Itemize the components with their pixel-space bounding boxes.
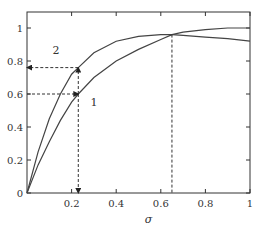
x-tick-label: 0.2	[64, 198, 80, 209]
line-chart: 0.20.40.60.8100.20.40.60.81σ21	[0, 0, 261, 227]
curve-label-2: 2	[52, 44, 59, 57]
y-tick-label: 0.4	[7, 122, 23, 133]
x-tick-label: 0.6	[153, 198, 169, 209]
chart-container: 0.20.40.60.8100.20.40.60.81σ21	[0, 0, 261, 227]
x-tick-label: 0.4	[108, 198, 124, 209]
series-line-2	[27, 35, 250, 193]
series-line-1	[27, 28, 250, 193]
x-axis-label: σ	[145, 213, 153, 226]
y-tick-label: 0.8	[7, 56, 23, 67]
y-tick-label: 0.2	[7, 155, 23, 166]
x-tick-label: 0.8	[197, 198, 213, 209]
curve-label-1: 1	[90, 96, 97, 109]
y-tick-label: 0.6	[7, 89, 23, 100]
y-tick-label: 0	[17, 188, 23, 199]
plot-frame	[27, 12, 250, 193]
y-tick-label: 1	[17, 23, 23, 34]
x-tick-label: 1	[247, 198, 253, 209]
